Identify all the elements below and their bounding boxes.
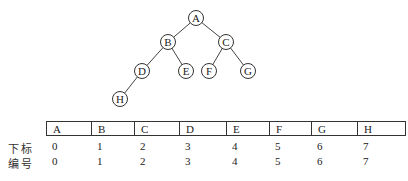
svg-text:G: G <box>244 65 252 77</box>
index-value: 7 <box>363 140 369 152</box>
svg-text:E: E <box>183 65 190 77</box>
number-value: 5 <box>275 155 281 167</box>
row-label-number: 编号 <box>8 155 34 171</box>
tree-node-B: B <box>161 35 176 50</box>
index-value: 1 <box>97 140 103 152</box>
tree-node-F: F <box>202 64 217 79</box>
tree-node-C: C <box>219 35 234 50</box>
index-value: 3 <box>185 140 191 152</box>
binary-tree: ABCDEFGH <box>0 0 408 115</box>
index-value: 0 <box>52 140 58 152</box>
number-value: 6 <box>317 155 323 167</box>
tree-node-E: E <box>179 64 194 79</box>
array-cell-B: B <box>92 122 135 135</box>
svg-text:A: A <box>192 12 200 24</box>
svg-text:B: B <box>164 36 171 48</box>
row-label-index: 下标 <box>8 140 34 156</box>
tree-node-H: H <box>113 92 128 107</box>
number-value: 0 <box>52 155 58 167</box>
svg-text:F: F <box>206 65 212 77</box>
array-cell-F: F <box>270 122 312 135</box>
number-value: 4 <box>232 155 238 167</box>
array-cell-C: C <box>135 122 180 135</box>
number-value: 1 <box>97 155 103 167</box>
svg-text:C: C <box>222 36 229 48</box>
number-value: 3 <box>185 155 191 167</box>
svg-text:H: H <box>116 93 124 105</box>
number-value: 7 <box>363 155 369 167</box>
array-storage: ABCDEFGH <box>46 121 406 136</box>
tree-node-G: G <box>241 64 256 79</box>
array-cell-D: D <box>180 122 227 135</box>
array-cell-E: E <box>227 122 270 135</box>
index-value: 4 <box>232 140 238 152</box>
array-cell-H: H <box>358 122 405 135</box>
array-cell-A: A <box>47 122 92 135</box>
number-value: 2 <box>140 155 146 167</box>
index-value: 2 <box>140 140 146 152</box>
array-cell-G: G <box>312 122 358 135</box>
index-value: 5 <box>275 140 281 152</box>
index-value: 6 <box>317 140 323 152</box>
svg-text:D: D <box>138 65 146 77</box>
tree-node-A: A <box>189 11 204 26</box>
tree-node-D: D <box>135 64 150 79</box>
